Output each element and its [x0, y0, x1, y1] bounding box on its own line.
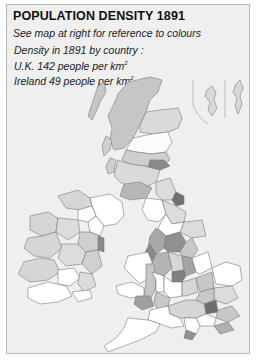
islands-inset	[193, 80, 243, 124]
ireland	[18, 190, 124, 304]
northern-england	[142, 178, 206, 262]
british-isles-map	[0, 0, 258, 360]
